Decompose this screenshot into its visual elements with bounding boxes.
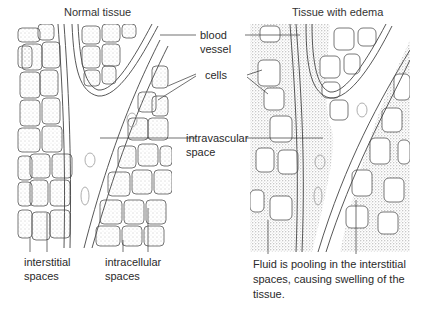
label-intravascular-space: intravascular space xyxy=(186,131,248,159)
label-cells: cells xyxy=(205,68,227,82)
label-intracellular-spaces: intracellular spaces xyxy=(105,255,161,283)
edema-caption: Fluid is pooling in the interstitial spa… xyxy=(253,257,406,302)
label-interstitial-spaces: interstitial spaces xyxy=(24,255,70,283)
normal-tissue-panel xyxy=(18,24,172,248)
label-blood-vessel: blood vessel xyxy=(200,28,231,56)
